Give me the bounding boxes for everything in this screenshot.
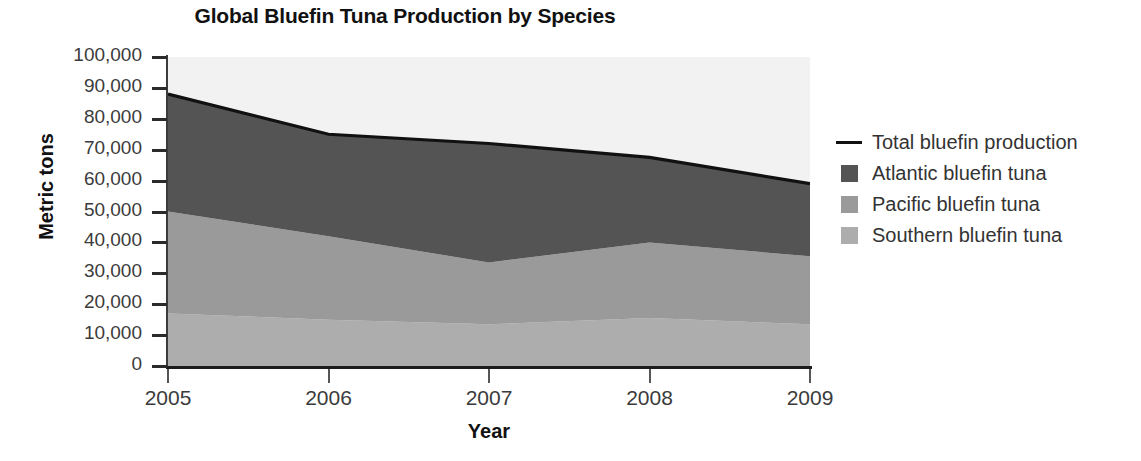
- chart-legend: Total bluefin productionAtlantic bluefin…: [836, 127, 1136, 251]
- legend-item-label: Total bluefin production: [872, 131, 1078, 154]
- y-axis-tick-mark: [152, 303, 167, 306]
- x-axis-tick-label: 2009: [750, 386, 870, 410]
- x-axis-tick-label: 2007: [429, 386, 549, 410]
- legend-item[interactable]: Total bluefin production: [836, 127, 1136, 158]
- legend-swatch-icon: [841, 165, 858, 182]
- y-axis-tick-label: 90,000: [34, 75, 142, 97]
- legend-swatch-icon: [841, 196, 858, 213]
- legend-item[interactable]: Atlantic bluefin tuna: [836, 158, 1136, 189]
- y-axis-tick-mark: [152, 118, 167, 121]
- x-axis-title: Year: [168, 420, 810, 443]
- x-axis-tick-mark: [809, 369, 811, 383]
- x-axis-tick-label: 2005: [108, 386, 228, 410]
- x-axis-tick-mark: [488, 369, 490, 383]
- x-axis-tick-mark: [328, 369, 330, 383]
- y-axis-tick-label: 70,000: [34, 137, 142, 159]
- y-axis-tick-mark: [152, 241, 167, 244]
- y-axis-tick-mark: [152, 149, 167, 152]
- legend-item-label: Pacific bluefin tuna: [872, 193, 1040, 216]
- y-axis-tick-mark: [152, 365, 167, 368]
- x-axis-tick-label: 2008: [590, 386, 710, 410]
- y-axis-tick-label: 40,000: [34, 229, 142, 251]
- legend-item-label: Southern bluefin tuna: [872, 224, 1062, 247]
- legend-swatch-marker: [836, 165, 862, 183]
- y-axis-tick-mark: [152, 56, 167, 59]
- x-axis-tick-mark: [167, 369, 169, 383]
- plot-area: [168, 57, 810, 366]
- legend-swatch-icon: [841, 227, 858, 244]
- legend-line-marker: [836, 134, 862, 152]
- area-chart-svg: [168, 57, 810, 366]
- y-axis-tick-label: 100,000: [34, 44, 142, 66]
- legend-line-marker-icon: [836, 141, 862, 144]
- y-axis-tick-label: 80,000: [34, 106, 142, 128]
- y-axis-tick-label: 50,000: [34, 199, 142, 221]
- y-axis-tick-label: 20,000: [34, 291, 142, 313]
- legend-item[interactable]: Pacific bluefin tuna: [836, 189, 1136, 220]
- x-axis-tick-mark: [649, 369, 651, 383]
- legend-item-label: Atlantic bluefin tuna: [872, 162, 1047, 185]
- legend-item[interactable]: Southern bluefin tuna: [836, 220, 1136, 251]
- chart-title: Global Bluefin Tuna Production by Specie…: [0, 4, 810, 28]
- legend-swatch-marker: [836, 196, 862, 214]
- y-axis-tick-mark: [152, 211, 167, 214]
- y-axis-tick-mark: [152, 87, 167, 90]
- y-axis-tick-mark: [152, 180, 167, 183]
- y-axis-tick-mark: [152, 334, 167, 337]
- y-axis-tick-mark: [152, 272, 167, 275]
- legend-swatch-marker: [836, 227, 862, 245]
- x-axis-tick-label: 2006: [269, 386, 389, 410]
- y-axis-tick-label: 30,000: [34, 260, 142, 282]
- y-axis-tick-label: 10,000: [34, 322, 142, 344]
- y-axis-tick-label: 0: [34, 353, 142, 375]
- y-axis-tick-label: 60,000: [34, 168, 142, 190]
- chart-figure: Global Bluefin Tuna Production by Specie…: [0, 0, 1141, 461]
